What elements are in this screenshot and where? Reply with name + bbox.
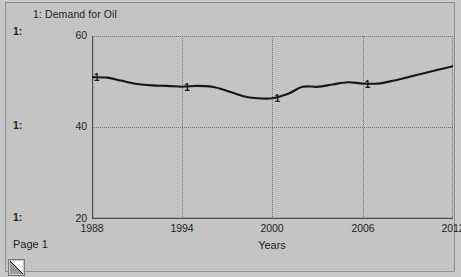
y-axis-tick-60: 60 xyxy=(61,29,87,41)
x-axis-tick-1988: 1988 xyxy=(69,222,115,234)
series-1-markers: 1111 xyxy=(94,72,371,104)
x-axis-tick-1994: 1994 xyxy=(159,222,205,234)
screenshot-canvas: 1: Demand for Oil 1: 1: 1: Page 1 60 40 … xyxy=(0,0,461,277)
series-marker-label: 1 xyxy=(94,72,100,83)
series-marker-label: 1 xyxy=(184,82,190,93)
x-axis-tick-2012: 2012 xyxy=(430,222,461,234)
plot-area[interactable]: 1111 xyxy=(92,36,453,219)
page-label: Page 1 xyxy=(13,238,48,250)
scale-label-top[interactable]: 1: xyxy=(13,25,22,37)
x-axis-tick-2006: 2006 xyxy=(340,222,386,234)
y-axis-tick-40: 40 xyxy=(61,120,87,132)
chart-window: 1: Demand for Oil 1: 1: 1: Page 1 60 40 … xyxy=(5,2,455,272)
resize-corner-icon[interactable] xyxy=(8,259,25,276)
grid-lines xyxy=(92,36,453,219)
x-axis-tick-2000: 2000 xyxy=(249,222,295,234)
scale-label-middle[interactable]: 1: xyxy=(13,119,22,131)
chart-title: 1: Demand for Oil xyxy=(33,8,117,20)
series-marker-label: 1 xyxy=(365,79,371,90)
scale-label-bottom[interactable]: 1: xyxy=(13,211,22,223)
line-chart-svg: 1111 xyxy=(92,36,453,219)
series-marker-label: 1 xyxy=(275,93,281,104)
x-axis-title: Years xyxy=(227,239,317,251)
